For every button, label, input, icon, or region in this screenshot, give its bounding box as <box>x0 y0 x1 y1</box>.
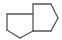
structure-diagram <box>0 0 62 40</box>
bond-line <box>7 30 20 38</box>
bond-group <box>7 4 58 38</box>
bond-line <box>51 18 58 31</box>
bond-line <box>20 31 33 38</box>
bond-line <box>51 4 58 18</box>
molecule-drawing <box>0 0 62 40</box>
